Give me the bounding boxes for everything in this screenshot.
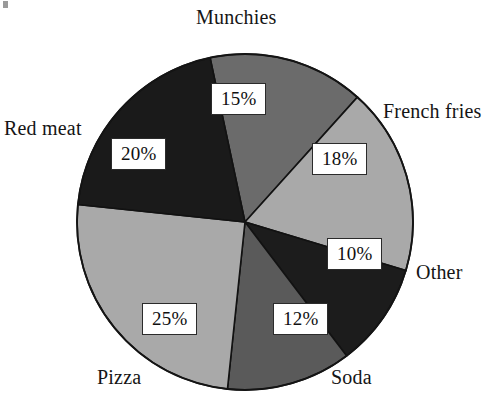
category-label-other: Other [416, 261, 463, 283]
value-label-soda: 12% [273, 303, 328, 335]
category-label-french-fries: French fries [383, 100, 481, 122]
category-label-red-meat: Red meat [4, 117, 82, 139]
category-label-soda: Soda [331, 366, 372, 388]
pie-chart: Munchies French fries Other Soda Pizza R… [0, 0, 495, 401]
value-label-munchies: 15% [211, 83, 266, 115]
slice-pizza[interactable] [77, 204, 245, 389]
value-label-pizza: 25% [142, 303, 197, 335]
category-label-munchies: Munchies [196, 6, 276, 28]
value-label-red-meat: 20% [111, 138, 166, 170]
pie-chart-canvas [0, 0, 495, 401]
value-label-french-fries: 18% [312, 143, 367, 175]
value-label-other: 10% [327, 238, 382, 270]
category-label-pizza: Pizza [97, 366, 141, 388]
